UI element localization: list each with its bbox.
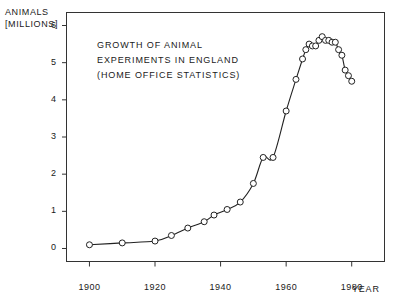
data-point-marker xyxy=(201,219,207,225)
data-point-marker xyxy=(250,180,256,186)
x-axis-tick-label: 1940 xyxy=(203,282,239,292)
y-axis-tick-label: 4 xyxy=(43,94,57,104)
data-point-marker xyxy=(283,108,289,114)
y-axis-label-line-1: ANIMALS xyxy=(5,6,58,18)
data-point-marker xyxy=(342,67,348,73)
data-point-marker xyxy=(300,56,306,62)
y-axis-tick-label: 6 xyxy=(43,20,57,30)
x-axis-tick-label: 1960 xyxy=(268,282,304,292)
x-axis-tick-label: 1920 xyxy=(137,282,173,292)
data-point-marker xyxy=(119,240,125,246)
data-point-marker xyxy=(168,232,174,238)
data-point-marker xyxy=(336,47,342,53)
data-point-marker xyxy=(211,212,217,218)
chart-title-line-3: (HOME OFFICE STATISTICS) xyxy=(97,68,240,83)
data-point-marker xyxy=(313,43,319,49)
data-point-marker xyxy=(260,154,266,160)
chart-container: ANIMALS [MILLIONS] YEAR GROWTH OF ANIMAL… xyxy=(0,0,401,302)
data-point-marker xyxy=(303,47,309,53)
data-point-marker xyxy=(349,78,355,84)
y-axis-tick-label: 3 xyxy=(43,131,57,141)
y-axis-tick-label: 1 xyxy=(43,205,57,215)
y-axis-tick-label: 0 xyxy=(43,242,57,252)
chart-title-line-2: EXPERIMENTS IN ENGLAND xyxy=(97,53,240,68)
data-point-marker xyxy=(86,242,92,248)
data-point-marker xyxy=(237,199,243,205)
data-point-marker xyxy=(345,73,351,79)
data-point-marker xyxy=(152,238,158,244)
x-axis-tick-label: 1980 xyxy=(334,282,370,292)
chart-title: GROWTH OF ANIMAL EXPERIMENTS IN ENGLAND … xyxy=(97,38,240,83)
chart-title-line-1: GROWTH OF ANIMAL xyxy=(97,38,240,53)
data-point-marker xyxy=(270,154,276,160)
data-point-marker xyxy=(293,76,299,82)
y-axis-tick-label: 2 xyxy=(43,168,57,178)
data-point-marker xyxy=(339,52,345,58)
x-axis-tick-marks xyxy=(89,262,351,267)
y-axis-tick-label: 5 xyxy=(43,57,57,67)
x-axis-tick-label: 1900 xyxy=(71,282,107,292)
data-point-marker xyxy=(224,206,230,212)
data-point-marker xyxy=(332,39,338,45)
data-point-marker xyxy=(185,225,191,231)
y-axis-tick-marks xyxy=(62,26,67,249)
